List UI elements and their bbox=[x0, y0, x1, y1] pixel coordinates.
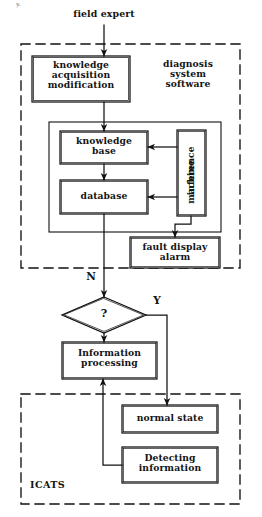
information-processing-label: Information processing bbox=[62, 348, 157, 368]
flowchart-diagram: y. field expert knowledge acquisition mo… bbox=[0, 0, 262, 517]
im-line-2: machine bbox=[186, 160, 196, 204]
normal-state-label: normal state bbox=[122, 413, 218, 423]
knowledge-acquisition-modification-label: knowledge acquisition modification bbox=[32, 60, 130, 90]
scan-artifact: y. bbox=[16, 0, 21, 7]
edge-label-yes: Y bbox=[150, 295, 164, 306]
knowledge-base-label: knowledge base bbox=[60, 136, 148, 156]
inference-machine-label-2: machine bbox=[187, 139, 197, 225]
group-diagnosis-system-software-label: diagnosis system software bbox=[140, 59, 236, 89]
field-expert-label: field expert bbox=[54, 9, 154, 19]
kam-line-3: modification bbox=[32, 80, 130, 90]
di-line-2: information bbox=[122, 463, 218, 473]
ip-line-2: processing bbox=[62, 358, 157, 368]
edge-label-no: N bbox=[84, 271, 98, 282]
edge-detecting-information-to-processing bbox=[103, 379, 122, 465]
inference-machine-label-wrap: inference machine bbox=[177, 130, 206, 216]
group-icats-label: ICATS bbox=[30, 480, 90, 490]
fda-line-2: alarm bbox=[130, 252, 220, 262]
database-label: database bbox=[60, 191, 148, 201]
detecting-information-label: Detecting information bbox=[122, 453, 218, 473]
dss-line-3: software bbox=[140, 79, 236, 89]
decision-label: ? bbox=[96, 308, 112, 320]
fault-display-alarm-label: fault display alarm bbox=[130, 242, 220, 262]
kb-line-2: base bbox=[60, 146, 148, 156]
